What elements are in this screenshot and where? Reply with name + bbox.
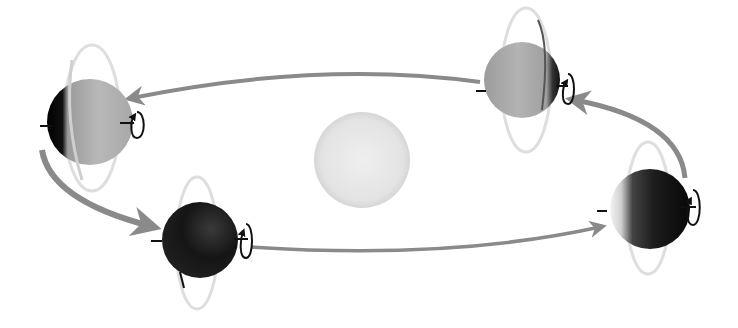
rotation-arrow-icon bbox=[241, 224, 252, 258]
orbit-arrow-topright-to-left bbox=[132, 74, 480, 98]
planet-right bbox=[597, 142, 700, 274]
orbit-diagram bbox=[0, 0, 738, 328]
planet-body bbox=[610, 169, 690, 249]
planet-bottom bbox=[151, 177, 252, 309]
sun bbox=[314, 112, 410, 208]
planet-top-right bbox=[476, 8, 574, 152]
rotation-arrow-icon bbox=[131, 112, 143, 138]
planet-body bbox=[162, 202, 238, 278]
planet-body bbox=[484, 42, 560, 118]
orbit-arrow-bottom-to-right bbox=[252, 227, 600, 251]
planet-left bbox=[40, 45, 144, 191]
rotation-arrow-icon bbox=[563, 74, 574, 104]
